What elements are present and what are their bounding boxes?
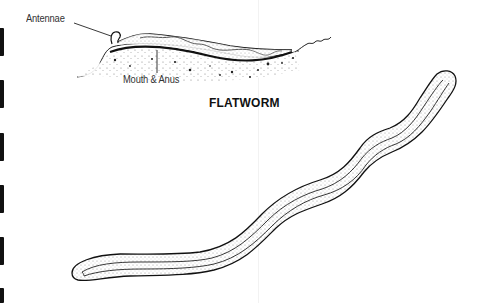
diagram-title: FLATWORM <box>209 96 280 110</box>
mouth-anus-label: Mouth & Anus <box>123 73 179 85</box>
antennae-label: Antennae <box>26 12 65 24</box>
flatworm-illustration <box>0 0 480 303</box>
flatworm-side-view <box>74 23 331 82</box>
diagram-page: Antennae Mouth & Anus FLATWORM <box>0 0 480 303</box>
